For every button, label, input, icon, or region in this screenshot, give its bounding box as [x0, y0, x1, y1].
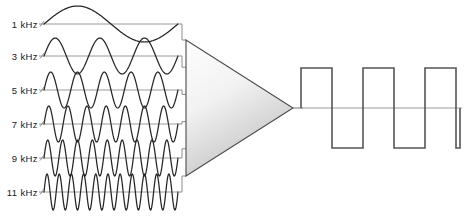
summing-amplifier-symbol — [186, 40, 293, 176]
frequency-label-9khz: 9 kHz — [12, 153, 38, 164]
amplifier-input-leads — [178, 24, 186, 192]
input-lead-5khz — [178, 90, 186, 94]
input-lead-3khz — [178, 56, 186, 67]
frequency-label-11khz: 11 kHz — [7, 187, 38, 198]
frequency-label-3khz: 3 kHz — [12, 51, 38, 62]
frequency-labels-group: 1 kHz3 kHz5 kHz7 kHz9 kHz11 kHz — [7, 19, 38, 198]
input-lead-9khz — [178, 149, 186, 158]
signal-synthesis-diagram: 1 kHz3 kHz5 kHz7 kHz9 kHz11 kHz — [0, 0, 470, 219]
input-channels-group — [39, 6, 178, 210]
input-lead-11khz — [178, 176, 186, 192]
frequency-label-5khz: 5 kHz — [12, 85, 38, 96]
diagram-canvas: 1 kHz3 kHz5 kHz7 kHz9 kHz11 kHz — [0, 0, 470, 219]
frequency-label-1khz: 1 kHz — [12, 19, 38, 30]
input-lead-7khz — [178, 122, 186, 124]
frequency-label-7khz: 7 kHz — [12, 119, 38, 130]
input-lead-1khz — [178, 24, 186, 40]
